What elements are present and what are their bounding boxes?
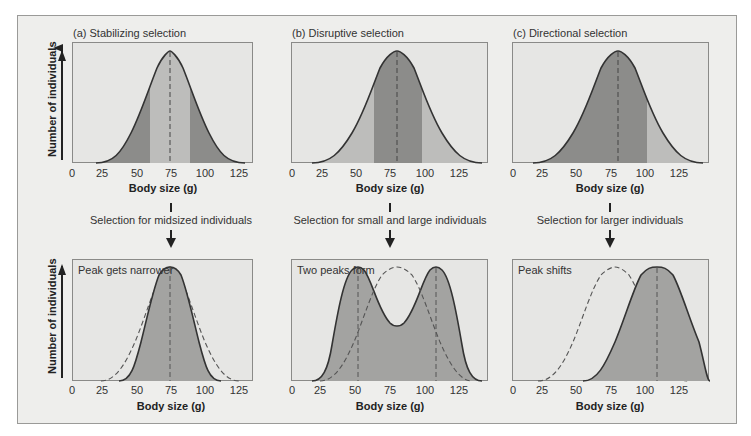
panel-b-selection-caption: Selection for small and large individual…: [293, 214, 486, 226]
panel-b-after-xlabel: Body size (g): [356, 400, 424, 412]
panel-a-result-label: Peak gets narrower: [78, 264, 173, 276]
panel-a-after-plot: Peak gets narrower: [72, 259, 253, 381]
panel-b-result-label: Two peaks form: [297, 264, 375, 276]
panel-c-selection-caption: Selection for larger individuals: [537, 214, 684, 226]
panel-c-after-xlabel: Body size (g): [576, 400, 644, 412]
panel-a-after-xlabel: Body size (g): [137, 400, 205, 412]
panel-c-result-label: Peak shifts: [518, 264, 572, 276]
panel-c-after-plot: Peak shifts: [512, 259, 709, 381]
panel-b-after-plot: Two peaks form: [291, 259, 488, 381]
panel-a-selection-caption: Selection for midsized individuals: [90, 214, 252, 226]
